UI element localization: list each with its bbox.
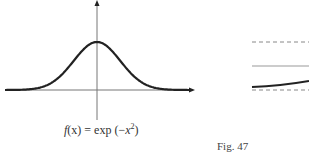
y-axis-arrow-icon: [95, 0, 100, 6]
caption-arg: (x): [67, 123, 81, 137]
left-panel: [5, 0, 195, 120]
figure-label: Fig. 47: [217, 140, 248, 152]
right-panel: [252, 42, 309, 90]
function-caption: f(x) = exp (−x2): [64, 122, 139, 138]
caption-close: ): [135, 123, 139, 137]
gaussian-curve: [5, 42, 192, 90]
figure-canvas: [0, 0, 309, 153]
caption-eq: = exp (−: [81, 123, 125, 137]
thick-curve: [252, 81, 309, 87]
